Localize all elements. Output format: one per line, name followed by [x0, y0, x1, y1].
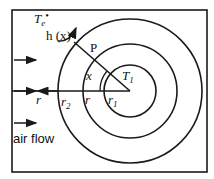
x-label: x — [85, 68, 92, 83]
r1-label: r1 — [108, 92, 118, 109]
airflow-label: air flow — [13, 131, 55, 146]
r-left-label: r — [36, 92, 42, 107]
r-mid-label: r — [85, 92, 91, 107]
heat-transfer-diagram: Te• h (x) P x T1 r r2 r r1 air flow — [0, 0, 214, 179]
p-label: P — [90, 40, 97, 55]
te-label: Te• — [34, 10, 49, 28]
t1-label: T1 — [122, 68, 134, 85]
hx-label: h (x) — [46, 28, 71, 43]
r2-label: r2 — [61, 94, 71, 111]
